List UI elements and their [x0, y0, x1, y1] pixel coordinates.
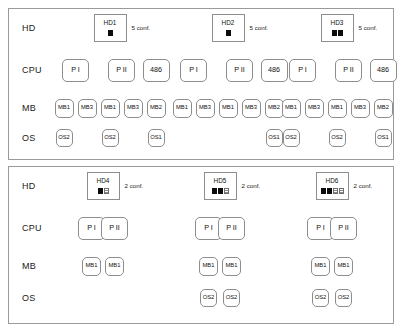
os-node[interactable]: OS2 — [102, 129, 119, 147]
os-node[interactable]: OS1 — [148, 129, 165, 147]
chip-filled-icon — [108, 30, 113, 36]
row-label-cpu: CPU — [22, 224, 42, 233]
os-node[interactable]: OS2 — [283, 129, 300, 147]
chip-filled-icon — [338, 30, 343, 36]
chip-hollow-icon — [333, 188, 338, 194]
chip-filled-icon — [332, 30, 337, 36]
cpu-node[interactable]: P II — [108, 59, 135, 82]
mb-node[interactable]: MB3 — [242, 99, 261, 118]
cpu-node[interactable]: 486 — [370, 59, 397, 82]
chip-hollow-icon — [104, 188, 109, 194]
row-label-hd: HD — [22, 182, 35, 191]
cpu-node[interactable]: P II — [101, 217, 128, 240]
hd-capacity-chips — [321, 188, 344, 194]
hd-node-label: HD5 — [214, 178, 227, 184]
hd-node-label: HD1 — [104, 20, 117, 26]
cpu-node[interactable]: P II — [335, 59, 362, 82]
hd-node-label: HD6 — [326, 178, 339, 184]
os-node[interactable]: OS2 — [56, 129, 73, 147]
mb-node[interactable]: MB2 — [374, 99, 393, 118]
hd-capacity-chips — [212, 188, 229, 194]
hd-node-hd3[interactable]: HD3 — [321, 14, 354, 42]
chip-hollow-icon — [339, 188, 344, 194]
hd-node-hd2[interactable]: HD2 — [212, 14, 245, 42]
mb-node[interactable]: MB1 — [328, 99, 347, 118]
mb-node[interactable]: MB2 — [147, 99, 166, 118]
chip-filled-icon — [226, 30, 231, 36]
mb-node[interactable]: MB1 — [101, 99, 120, 118]
cpu-node[interactable]: P II — [226, 59, 253, 82]
cpu-node[interactable]: 486 — [261, 59, 288, 82]
mb-node[interactable]: MB3 — [78, 99, 97, 118]
chip-hollow-icon — [224, 188, 229, 194]
chip-filled-icon — [218, 188, 223, 194]
mb-node[interactable]: MB1 — [222, 257, 241, 276]
row-label-os: OS — [22, 294, 35, 303]
hd-capacity-chips — [226, 30, 231, 36]
mb-node[interactable]: MB3 — [305, 99, 324, 118]
os-node[interactable]: OS2 — [200, 289, 217, 307]
chip-filled-icon — [321, 188, 326, 194]
hd-capacity-chips — [332, 30, 343, 36]
hd-node-hd6[interactable]: HD6 — [316, 172, 349, 200]
mb-node[interactable]: MB3 — [124, 99, 143, 118]
conf-count-label: 2 conf. — [125, 183, 144, 189]
cpu-node[interactable]: P I — [289, 59, 316, 82]
conf-count-label: 2 conf. — [354, 183, 373, 189]
hd-node-hd4[interactable]: HD4 — [87, 172, 120, 200]
mb-node[interactable]: MB1 — [173, 99, 192, 118]
mb-node[interactable]: MB1 — [282, 99, 301, 118]
mb-node[interactable]: MB1 — [334, 257, 353, 276]
os-node[interactable]: OS2 — [335, 289, 352, 307]
mb-node[interactable]: MB3 — [351, 99, 370, 118]
conf-count-label: 5 conf. — [250, 25, 269, 31]
chip-filled-icon — [212, 188, 217, 194]
cpu-node[interactable]: 486 — [143, 59, 170, 82]
os-node[interactable]: OS2 — [312, 289, 329, 307]
hd-capacity-chips — [108, 30, 113, 36]
hd-node-label: HD4 — [97, 178, 110, 184]
conf-count-label: 2 conf. — [242, 183, 261, 189]
hd-capacity-chips — [98, 188, 109, 194]
hd-node-hd5[interactable]: HD5 — [204, 172, 237, 200]
cpu-node[interactable]: P I — [62, 59, 89, 82]
row-label-mb: MB — [22, 104, 36, 113]
conf-count-label: 5 conf. — [359, 25, 378, 31]
diagram-canvas: HDCPUMBOSHD15 conf.P IMB1OS2MB3P IIMB1OS… — [0, 0, 402, 332]
mb-node[interactable]: MB1 — [105, 257, 124, 276]
chip-filled-icon — [98, 188, 103, 194]
row-label-os: OS — [22, 134, 35, 143]
cpu-node[interactable]: P II — [330, 217, 357, 240]
row-label-cpu: CPU — [22, 66, 42, 75]
hd-node-hd1[interactable]: HD1 — [94, 14, 127, 42]
cpu-node[interactable]: P II — [218, 217, 245, 240]
mb-node[interactable]: MB1 — [219, 99, 238, 118]
chip-filled-icon — [327, 188, 332, 194]
os-node[interactable]: OS1 — [266, 129, 283, 147]
mb-node[interactable]: MB1 — [311, 257, 330, 276]
mb-node[interactable]: MB1 — [199, 257, 218, 276]
os-node[interactable]: OS2 — [329, 129, 346, 147]
os-node[interactable]: OS2 — [223, 289, 240, 307]
mb-node[interactable]: MB3 — [196, 99, 215, 118]
row-label-mb: MB — [22, 262, 36, 271]
mb-node[interactable]: MB1 — [82, 257, 101, 276]
cpu-node[interactable]: P I — [180, 59, 207, 82]
os-node[interactable]: OS1 — [375, 129, 392, 147]
hd-node-label: HD2 — [222, 20, 235, 26]
hd-node-label: HD3 — [331, 20, 344, 26]
mb-node[interactable]: MB2 — [265, 99, 284, 118]
mb-node[interactable]: MB1 — [55, 99, 74, 118]
conf-count-label: 5 conf. — [132, 25, 151, 31]
row-label-hd: HD — [22, 24, 35, 33]
